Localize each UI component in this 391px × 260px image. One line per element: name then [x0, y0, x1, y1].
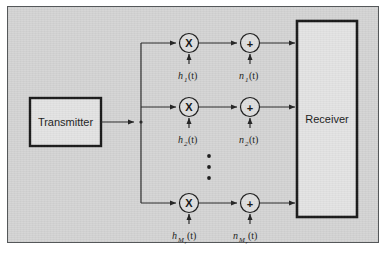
branch-2-channel-arg: (t) [188, 134, 197, 146]
transmitter-label: Transmitter [38, 116, 94, 128]
adder-symbol: + [247, 38, 253, 50]
multiplier-symbol: X [185, 37, 193, 49]
branch-row-1: X + [141, 34, 295, 85]
branch-3-noise-label: n M r (t) [233, 230, 257, 244]
branch-1-channel-arg: (t) [188, 70, 197, 82]
ellipsis-dot [207, 165, 211, 169]
multiplier-symbol: X [185, 197, 193, 209]
diagram-canvas: Transmitter X [8, 7, 380, 244]
receiver-label: Receiver [305, 113, 349, 125]
multiplier-symbol: X [185, 101, 193, 113]
branch-1-noise-arg: (t) [249, 70, 258, 82]
branch-2-adder[interactable]: + [241, 98, 260, 117]
transmitter-block[interactable]: Transmitter [30, 98, 101, 146]
adder-symbol: + [247, 102, 253, 114]
branch-2-channel-label: h 2 (t) [178, 134, 197, 148]
branch-3-noise-arg: (t) [248, 230, 257, 242]
branch-3-channel-arg: (t) [187, 230, 196, 242]
branch-1-channel-sub: 1 [184, 76, 188, 84]
figure-panel: Transmitter X [7, 6, 379, 243]
branch-3-channel-base: h [172, 230, 177, 241]
branch-1-adder[interactable]: + [241, 34, 260, 53]
block-diagram-svg: Transmitter X [8, 7, 380, 244]
adder-symbol: + [247, 198, 253, 210]
branch-3-adder[interactable]: + [241, 194, 260, 213]
branch-2-multiplier[interactable]: X [180, 98, 199, 117]
branch-3-noise-base: n [233, 230, 238, 241]
vertical-ellipsis [207, 154, 211, 180]
figure-root: Transmitter X [0, 0, 391, 260]
branch-1-noise-sub: 1 [245, 76, 249, 84]
branch-2-channel-base: h [178, 134, 183, 145]
branch-2-noise-arg: (t) [249, 134, 258, 146]
branch-1-noise-label: n 1 (t) [239, 70, 258, 84]
branch-2-noise-label: n 2 (t) [239, 134, 258, 148]
branch-row-2: X + h 2 (t) [141, 98, 295, 149]
signal-splitter-bus [139, 43, 142, 203]
branch-3-channel-label: h M r (t) [172, 230, 196, 244]
branch-row-3: X + h M r (t) [141, 194, 295, 245]
receiver-block[interactable]: Receiver [297, 21, 357, 217]
splitter-junction-dot [139, 120, 142, 123]
branch-1-channel-base: h [178, 70, 183, 81]
branch-1-multiplier[interactable]: X [180, 34, 199, 53]
branch-1-channel-label: h 1 (t) [178, 70, 197, 84]
ellipsis-dot [207, 176, 211, 180]
branch-3-multiplier[interactable]: X [180, 194, 199, 213]
ellipsis-dot [207, 154, 211, 158]
branch-1-noise-base: n [239, 70, 244, 81]
branch-2-noise-base: n [239, 134, 244, 145]
